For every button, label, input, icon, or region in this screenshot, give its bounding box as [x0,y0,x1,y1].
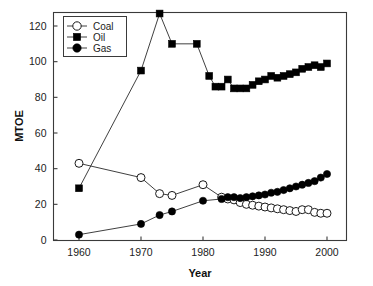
data-point-coal [156,190,164,198]
data-point-oil [255,78,262,85]
data-point-oil [138,67,145,74]
data-point-oil [76,185,83,192]
data-point-oil [268,73,275,80]
data-point-gas [323,170,330,177]
data-point-oil [293,69,300,76]
legend-label-oil: Oil [93,32,105,43]
x-tick-label: 1990 [253,246,277,258]
chart-figure: 020406080100120 19601970198019902000 MTO… [0,0,373,286]
data-point-oil [262,76,269,83]
data-point-gas [137,220,144,227]
data-point-oil [218,83,225,90]
data-point-coal [323,209,331,217]
data-point-oil [156,10,163,17]
data-point-oil [299,65,306,72]
data-point-oil [280,73,287,80]
y-tick-label: 100 [29,55,47,67]
chart-background [0,0,373,286]
y-tick-label: 0 [41,234,47,246]
data-point-oil [286,71,293,78]
y-tick-label: 120 [29,20,47,32]
data-point-oil [231,85,238,92]
legend-marker-oil-filled-square-icon [73,33,80,40]
data-point-oil [274,74,281,81]
y-tick-label: 60 [35,127,47,139]
data-point-oil [169,40,176,47]
data-point-oil [193,40,200,47]
data-point-coal [168,191,176,199]
y-tick-label: 20 [35,198,47,210]
data-point-oil [224,76,231,83]
y-tick-label: 40 [35,162,47,174]
data-point-coal [75,159,83,167]
x-axis-title: Year [188,267,212,279]
y-tick-label: 80 [35,91,47,103]
data-point-coal [199,181,207,189]
legend-label-coal: Coal [93,21,114,32]
data-point-oil [317,64,324,71]
data-point-oil [324,60,331,67]
data-point-coal [137,174,145,182]
legend-label-gas: Gas [93,43,111,54]
y-axis-title: MTOE [13,110,25,142]
x-tick-label: 1960 [67,246,91,258]
legend-marker-coal-open-circle-icon [73,22,81,30]
data-point-gas [199,197,206,204]
data-point-gas [75,231,82,238]
data-point-oil [243,85,250,92]
chart-plot-area: 020406080100120 19601970198019902000 MTO… [0,0,373,286]
data-point-oil [212,83,219,90]
data-point-oil [237,85,244,92]
x-tick-label: 1980 [191,246,215,258]
data-point-oil [305,64,312,71]
data-point-oil [249,81,256,88]
data-point-gas [168,208,175,215]
data-point-oil [311,62,318,69]
legend-marker-gas-filled-circle-icon [73,44,81,52]
x-tick-label: 2000 [315,246,339,258]
chart-legend: Coal Oil Gas [64,17,127,57]
x-tick-label: 1970 [129,246,153,258]
data-point-gas [156,211,163,218]
data-point-oil [206,73,213,80]
